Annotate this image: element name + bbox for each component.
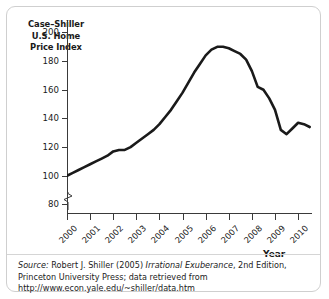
x-tick [136, 214, 137, 220]
x-tick [113, 214, 114, 220]
source-caption: Source: Robert J. Shiller (2005) Irratio… [18, 260, 310, 295]
x-tick [183, 214, 184, 220]
x-tick-label: 2009 [265, 223, 287, 245]
y-tick-label: 200 [43, 27, 59, 37]
x-tick [159, 214, 160, 220]
x-tick [298, 214, 299, 220]
y-tick-label: 180 [43, 56, 59, 66]
x-tick-label: 2010 [288, 223, 310, 245]
caption-source-label: Source: [18, 260, 49, 270]
y-tick-label: 80 [48, 199, 59, 209]
x-tick [206, 214, 207, 220]
caption-divider [7, 254, 320, 255]
x-tick [67, 214, 68, 220]
x-tick-label: 2003 [126, 223, 148, 245]
x-tick-label: 2006 [196, 223, 218, 245]
x-tick-label: 2002 [103, 223, 125, 245]
y-tick-label: 160 [43, 85, 59, 95]
y-tick-label: 120 [43, 142, 59, 152]
caption-author: Robert J. Shiller (2005) [49, 260, 146, 270]
caption-url: http://www.econ.yale.edu/~shiller/data.h… [18, 283, 195, 293]
x-tick-label: 2001 [80, 223, 102, 245]
x-tick [90, 214, 91, 220]
caption-book-title: Irrational Exuberance [146, 260, 233, 270]
x-tick [275, 214, 276, 220]
x-tick-label: 2008 [242, 223, 264, 245]
figure-frame: Case–Shiller U.S. Home Price Index 80100… [6, 6, 321, 292]
plot-area: 80100120140160180200 2000200120022003200… [67, 21, 312, 213]
y-tick-label: 140 [43, 113, 59, 123]
price-index-line [67, 21, 312, 213]
x-tick-label: 2000 [57, 223, 79, 245]
x-tick [229, 214, 230, 220]
y-tick-label: 100 [43, 171, 59, 181]
x-tick [252, 214, 253, 220]
x-tick-label: 2005 [172, 223, 194, 245]
x-tick-label: 2007 [219, 223, 241, 245]
x-tick-label: 2004 [149, 223, 171, 245]
